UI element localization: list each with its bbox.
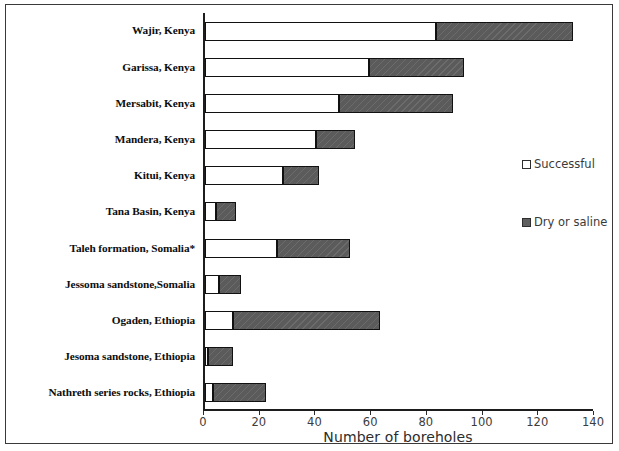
stacked-bar[interactable] bbox=[205, 239, 350, 258]
bar-segment-successful[interactable] bbox=[205, 166, 283, 185]
bar-segment-dry-or-saline[interactable] bbox=[233, 311, 381, 330]
category-label-row: Nathreth series rocks, Ethiopia bbox=[6, 375, 203, 411]
bar-segment-successful[interactable] bbox=[205, 94, 339, 113]
bar-segment-dry-or-saline[interactable] bbox=[283, 166, 319, 185]
figure-frame: Wajir, KenyaGarissa, KenyaMersabit, Keny… bbox=[5, 4, 613, 444]
category-label-row: Tana Basin, Kenya bbox=[6, 194, 203, 230]
category-label: Jesoma sandstone, Ethiopia bbox=[7, 351, 203, 362]
category-label: Garissa, Kenya bbox=[7, 62, 203, 73]
stacked-bar[interactable] bbox=[205, 347, 233, 366]
bar-segment-successful[interactable] bbox=[205, 275, 219, 294]
category-label: Ogaden, Ethiopia bbox=[7, 315, 203, 326]
bar-row bbox=[205, 339, 593, 375]
bar-row bbox=[205, 302, 593, 338]
category-label: Jessoma sandstone,Somalia bbox=[7, 279, 203, 290]
stacked-bar[interactable] bbox=[205, 22, 573, 41]
bar-segment-dry-or-saline[interactable] bbox=[436, 22, 573, 41]
bar-segment-dry-or-saline[interactable] bbox=[213, 383, 266, 402]
bar-segment-dry-or-saline[interactable] bbox=[277, 239, 349, 258]
bar-segment-successful[interactable] bbox=[205, 311, 233, 330]
x-axis-title: Number of boreholes bbox=[203, 429, 593, 445]
bar-segment-successful[interactable] bbox=[205, 22, 436, 41]
bar-segment-successful[interactable] bbox=[205, 58, 369, 77]
category-label: Kitui, Kenya bbox=[7, 170, 203, 181]
category-label: Mandera, Kenya bbox=[7, 134, 203, 145]
chart-legend: Successful Dry or saline bbox=[522, 157, 618, 273]
white-square-icon bbox=[522, 160, 531, 169]
bar-row bbox=[205, 122, 593, 158]
bar-segment-successful[interactable] bbox=[205, 383, 213, 402]
stacked-bar[interactable] bbox=[205, 383, 266, 402]
x-tick-label: 20 bbox=[251, 415, 266, 429]
x-tick-label: 140 bbox=[582, 415, 604, 429]
category-label-row: Mersabit, Kenya bbox=[6, 85, 203, 121]
category-label: Tana Basin, Kenya bbox=[7, 206, 203, 217]
category-label-row: Taleh formation, Somalia* bbox=[6, 230, 203, 266]
stacked-bar[interactable] bbox=[205, 166, 319, 185]
stacked-bar[interactable] bbox=[205, 58, 464, 77]
x-tick-label: 40 bbox=[307, 415, 322, 429]
category-label: Mersabit, Kenya bbox=[7, 98, 203, 109]
category-label-row: Ogaden, Ethiopia bbox=[6, 302, 203, 338]
legend-label-dry-or-saline: Dry or saline bbox=[534, 215, 607, 229]
stacked-bar[interactable] bbox=[205, 130, 355, 149]
category-label-row: Wajir, Kenya bbox=[6, 13, 203, 49]
x-tick-label: 60 bbox=[363, 415, 378, 429]
bar-segment-dry-or-saline[interactable] bbox=[339, 94, 453, 113]
x-tick-label: 0 bbox=[199, 415, 206, 429]
legend-item-successful: Successful bbox=[522, 157, 618, 171]
category-axis-labels: Wajir, KenyaGarissa, KenyaMersabit, Keny… bbox=[6, 13, 203, 411]
stacked-bar[interactable] bbox=[205, 311, 380, 330]
legend-label-successful: Successful bbox=[534, 157, 595, 171]
stacked-bar[interactable] bbox=[205, 94, 453, 113]
legend-item-dry-or-saline: Dry or saline bbox=[522, 215, 618, 229]
category-label-row: Jesoma sandstone, Ethiopia bbox=[6, 339, 203, 375]
x-tick-label: 100 bbox=[471, 415, 493, 429]
x-tick-label: 120 bbox=[526, 415, 548, 429]
category-label-row: Jessoma sandstone,Somalia bbox=[6, 266, 203, 302]
bar-segment-successful[interactable] bbox=[205, 130, 316, 149]
category-label-row: Garissa, Kenya bbox=[6, 49, 203, 85]
bar-segment-dry-or-saline[interactable] bbox=[369, 58, 464, 77]
category-label: Wajir, Kenya bbox=[7, 25, 203, 36]
bar-row bbox=[205, 13, 593, 49]
gray-square-icon bbox=[522, 218, 531, 227]
bar-row bbox=[205, 375, 593, 411]
category-label: Nathreth series rocks, Ethiopia bbox=[7, 387, 203, 398]
bar-segment-dry-or-saline[interactable] bbox=[208, 347, 233, 366]
bar-row bbox=[205, 85, 593, 121]
stacked-bar[interactable] bbox=[205, 202, 236, 221]
bar-row bbox=[205, 49, 593, 85]
category-label-row: Mandera, Kenya bbox=[6, 122, 203, 158]
category-label-row: Kitui, Kenya bbox=[6, 158, 203, 194]
bar-segment-successful[interactable] bbox=[205, 202, 216, 221]
stacked-bar[interactable] bbox=[205, 275, 241, 294]
x-tick-label: 80 bbox=[419, 415, 434, 429]
bar-segment-dry-or-saline[interactable] bbox=[216, 202, 236, 221]
chart-page: Wajir, KenyaGarissa, KenyaMersabit, Keny… bbox=[0, 0, 619, 451]
category-label: Taleh formation, Somalia* bbox=[7, 243, 203, 254]
bar-segment-dry-or-saline[interactable] bbox=[219, 275, 241, 294]
bar-segment-successful[interactable] bbox=[205, 239, 277, 258]
bar-segment-dry-or-saline[interactable] bbox=[316, 130, 355, 149]
